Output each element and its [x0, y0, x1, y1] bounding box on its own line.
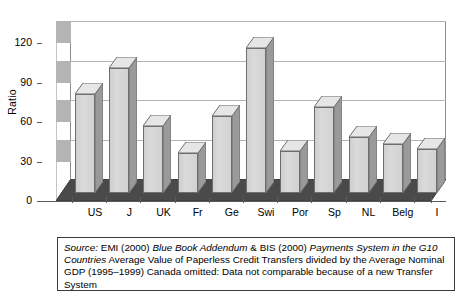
y-tick-mark — [37, 122, 42, 123]
bar-series — [56, 21, 446, 201]
caption-italic-title-1: Blue Book Addendum — [152, 242, 247, 253]
bar — [212, 116, 232, 192]
bar-side-face — [266, 37, 274, 193]
bar-top-face — [349, 126, 377, 137]
x-tick-mark — [243, 197, 244, 203]
bar-front-face — [417, 149, 437, 192]
y-tick-mark — [37, 83, 42, 84]
x-tick-label: I — [414, 206, 460, 218]
bar-front-face — [349, 137, 369, 192]
bar-front-face — [143, 126, 163, 193]
bar-side-face — [129, 57, 137, 193]
caption-source-label: Source: — [64, 242, 98, 253]
bar-chart-figure: Ratio 0306090120 USJUKFrGeSwiPorSpNLBelg… — [0, 0, 460, 232]
y-tick-label: 60 — [6, 115, 32, 127]
bar — [383, 144, 403, 193]
x-tick-mark — [414, 197, 415, 203]
bar-top-face — [178, 142, 206, 153]
x-tick-mark — [175, 197, 176, 203]
bar — [349, 137, 369, 192]
caption-line1a: EMI (2000) — [98, 242, 152, 253]
bar-front-face — [178, 153, 198, 193]
bar-top-face — [314, 96, 342, 107]
x-tick-mark — [72, 197, 73, 203]
source-caption-text: Source: EMI (2000) Blue Book Addendum & … — [64, 242, 448, 291]
x-tick-mark — [106, 197, 107, 203]
bar-side-face — [334, 96, 342, 193]
bar-side-face — [95, 83, 103, 193]
source-caption-box: Source: EMI (2000) Blue Book Addendum & … — [57, 237, 455, 291]
bar — [417, 149, 437, 192]
bar — [246, 48, 266, 193]
bar-top-face — [246, 37, 274, 48]
bar-front-face — [212, 116, 232, 192]
bar — [280, 151, 300, 193]
y-tick-label: 120 — [6, 36, 32, 48]
bar-front-face — [246, 48, 266, 193]
y-tick-mark — [37, 162, 42, 163]
bar-front-face — [75, 94, 95, 193]
caption-line2: Average Value of Paperless Credit Transf… — [64, 254, 444, 289]
plot-area — [56, 21, 446, 201]
caption-line1b: & BIS (2000) — [248, 242, 310, 253]
y-tick-label: 0 — [6, 194, 32, 206]
bar-front-face — [280, 151, 300, 193]
x-tick-mark — [209, 197, 210, 203]
bar-top-face — [383, 133, 411, 144]
bar-side-face — [163, 115, 171, 193]
bar-top-face — [417, 138, 445, 149]
y-tick-mark — [37, 43, 42, 44]
bar — [109, 68, 129, 193]
bar-top-face — [212, 105, 240, 116]
bar-top-face — [75, 83, 103, 94]
bar-side-face — [232, 105, 240, 192]
x-tick-mark — [380, 197, 381, 203]
y-tick-label: 30 — [6, 155, 32, 167]
x-tick-mark — [431, 197, 432, 203]
bar — [178, 153, 198, 193]
bar-front-face — [383, 144, 403, 193]
bar-top-face — [109, 57, 137, 68]
y-tick-label: 90 — [6, 76, 32, 88]
x-tick-mark — [140, 197, 141, 203]
bar — [314, 107, 334, 193]
x-tick-mark — [311, 197, 312, 203]
bar — [143, 126, 163, 193]
x-tick-mark — [277, 197, 278, 203]
bar-front-face — [314, 107, 334, 193]
bar-top-face — [143, 115, 171, 126]
bar-top-face — [280, 140, 308, 151]
bar-front-face — [109, 68, 129, 193]
x-tick-mark — [346, 197, 347, 203]
bar — [75, 94, 95, 193]
